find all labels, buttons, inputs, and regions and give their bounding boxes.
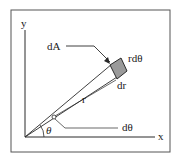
r-dtheta-label: rdθ bbox=[128, 52, 142, 64]
x-axis-label: x bbox=[158, 130, 164, 142]
r-label: r bbox=[82, 93, 86, 105]
dtheta-label: dθ bbox=[122, 121, 133, 133]
area-element-dA bbox=[110, 58, 127, 79]
theta-label: θ bbox=[46, 124, 52, 136]
polar-area-diagram: y x dA rdθ dr r θ dθ bbox=[0, 0, 182, 159]
dr-label: dr bbox=[117, 79, 127, 91]
ray-upper bbox=[25, 64, 112, 137]
dtheta-leader-line bbox=[55, 119, 118, 128]
dA-leader-line bbox=[66, 46, 110, 62]
dA-label: dA bbox=[47, 40, 61, 52]
dtheta-marker-circle bbox=[52, 115, 56, 119]
y-axis-label: y bbox=[21, 17, 27, 29]
